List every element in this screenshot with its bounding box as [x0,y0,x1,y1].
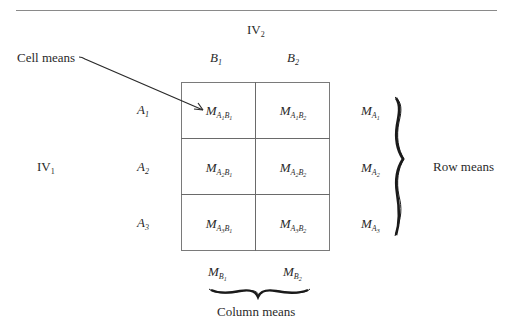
arrow-icon [79,57,203,110]
bottom-brace-icon [209,289,310,297]
right-brace-icon [395,97,404,236]
annotation-graphics [0,0,514,328]
